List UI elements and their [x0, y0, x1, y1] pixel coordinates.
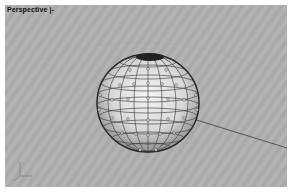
viewport-title-menu[interactable]: Perspective |-: [7, 6, 54, 13]
sphere-pole: [136, 53, 164, 61]
viewport-scene[interactable]: [5, 5, 287, 187]
perspective-viewport[interactable]: Perspective |-: [5, 5, 287, 187]
sphere-object[interactable]: [97, 53, 199, 152]
